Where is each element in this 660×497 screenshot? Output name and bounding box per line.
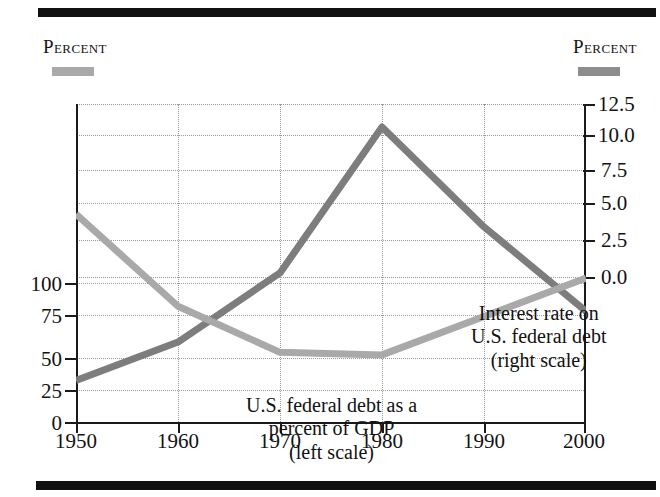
left-axis-unit-label: Percent	[43, 36, 107, 58]
x-axis-tick-label: 1950	[36, 429, 116, 454]
annotation-federal-debt-line1: U.S. federal debt as a	[246, 394, 417, 417]
x-axis-tick-label: 1960	[138, 429, 218, 454]
y-axis-left-tick-label: 25	[0, 379, 62, 404]
right-axis-unit-label: Percent	[573, 36, 637, 58]
bottom-rule	[36, 481, 656, 490]
annotation-interest-rate: Interest rate on U.S. federal debt (righ…	[471, 302, 607, 372]
annotation-interest-rate-line2: U.S. federal debt	[471, 325, 607, 348]
y-axis-right-tick-label: 12.5	[598, 92, 635, 117]
y-axis-right-tick-label: 2.5	[601, 228, 627, 253]
x-axis-tick-label: 2000	[544, 429, 624, 454]
y-axis-left-tick-label: 75	[0, 304, 62, 329]
legend-swatch-debt	[52, 67, 94, 76]
legend-swatch-interest-rate	[578, 67, 620, 76]
x-axis-tick-label: 1990	[444, 429, 524, 454]
x-axis-tick-label: 1980	[342, 429, 422, 454]
annotation-interest-rate-line1: Interest rate on	[471, 302, 607, 325]
chart-plot-area: Interest rate on U.S. federal debt (righ…	[76, 104, 586, 424]
y-axis-left-tick-label: 50	[0, 347, 62, 372]
x-axis-tick-label: 1970	[240, 429, 320, 454]
y-axis-right-tick-label: 7.5	[601, 158, 627, 183]
y-axis-left-tick-label: 100	[0, 272, 62, 297]
y-axis-right-tick-label: 10.0	[598, 123, 635, 148]
top-rule	[38, 8, 656, 17]
annotation-interest-rate-line3: (right scale)	[471, 349, 607, 372]
chart-series-layer	[76, 104, 586, 424]
y-axis-right-tick-label: 0.0	[601, 265, 627, 290]
y-axis-right-tick-label: 5.0	[601, 191, 627, 216]
